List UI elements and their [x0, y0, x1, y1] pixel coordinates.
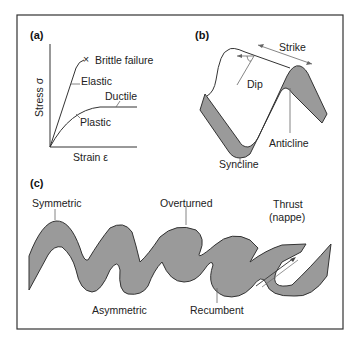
symmetric-label: Symmetric — [32, 197, 82, 209]
overturned-label: Overturned — [160, 197, 213, 209]
panel-b-tag: (b) — [195, 29, 209, 41]
x-axis-label: Strain ε — [73, 151, 108, 163]
elastic-label: Elastic — [81, 75, 112, 87]
recumbent-label: Recumbent — [190, 304, 244, 316]
plastic-label: Plastic — [80, 116, 111, 128]
dip-label: Dip — [247, 78, 263, 90]
anticline-label: Anticline — [269, 137, 309, 149]
brittle-failure-label: Brittle failure — [95, 54, 154, 66]
panel-a-tag: (a) — [30, 29, 44, 41]
thrust-label-line1: Thrust — [273, 198, 303, 210]
asymmetric-label: Asymmetric — [92, 304, 147, 316]
brittle-marker: × — [83, 53, 89, 65]
y-axis-label: Stress σ — [33, 77, 45, 117]
ductile-label: Ductile — [105, 90, 137, 102]
panel-c-tag: (c) — [30, 177, 44, 189]
thrust-label-line2: (nappe) — [269, 211, 305, 223]
strike-label: Strike — [279, 41, 306, 53]
fold-diagram: (a) × Brittle failure Elastic Ductile Pl… — [0, 0, 362, 348]
syncline-label: Syncline — [219, 158, 259, 170]
